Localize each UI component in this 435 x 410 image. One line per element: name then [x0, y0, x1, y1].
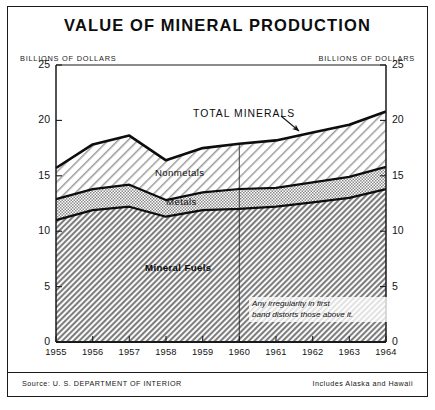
annotation-line-2: band distorts those above it.: [252, 310, 400, 321]
y-axis-label-5: 5: [28, 280, 50, 292]
chart-figure: VALUE OF MINERAL PRODUCTION BILLIONS OF …: [0, 0, 435, 410]
x-axis-label-1956: 1956: [76, 347, 110, 357]
series-label-metals: Metals: [166, 196, 197, 207]
y-axis-label-right-5: 5: [392, 280, 414, 292]
x-axis-label-1961: 1961: [259, 347, 293, 357]
x-axis-label-1960: 1960: [222, 347, 256, 357]
chart-annotation: Any irregularity in first band distorts …: [249, 297, 403, 322]
footer-note: Includes Alaska and Hawaii: [313, 379, 414, 388]
y-axis-label-20: 20: [28, 113, 50, 125]
y-axis-label-right-0: 0: [392, 335, 414, 347]
y-axis-label-15: 15: [28, 169, 50, 181]
y-axis-label-25: 25: [28, 58, 50, 70]
x-axis-label-1962: 1962: [296, 347, 330, 357]
y-axis-label-0: 0: [28, 335, 50, 347]
y-axis-label-10: 10: [28, 224, 50, 236]
x-axis-label-1963: 1963: [332, 347, 366, 357]
x-axis-label-1955: 1955: [39, 347, 73, 357]
annotation-line-1: Any irregularity in first: [252, 299, 400, 310]
y-axis-label-right-15: 15: [392, 169, 414, 181]
y-axis-label-right-25: 25: [392, 58, 414, 70]
series-label-mineral-fuels: Mineral Fuels: [145, 262, 212, 273]
footer-source: Source: U. S. DEPARTMENT OF INTERIOR: [22, 379, 182, 388]
x-axis-label-1957: 1957: [112, 347, 146, 357]
y-axis-label-right-20: 20: [392, 113, 414, 125]
series-callout-total-minerals: TOTAL MINERALS: [193, 108, 295, 119]
footer-divider: [8, 372, 427, 373]
series-label-nonmetals: Nonmetals: [155, 167, 204, 178]
x-axis-label-1959: 1959: [186, 347, 220, 357]
x-axis-label-1964: 1964: [369, 347, 403, 357]
x-axis-label-1958: 1958: [149, 347, 183, 357]
y-axis-label-right-10: 10: [392, 224, 414, 236]
